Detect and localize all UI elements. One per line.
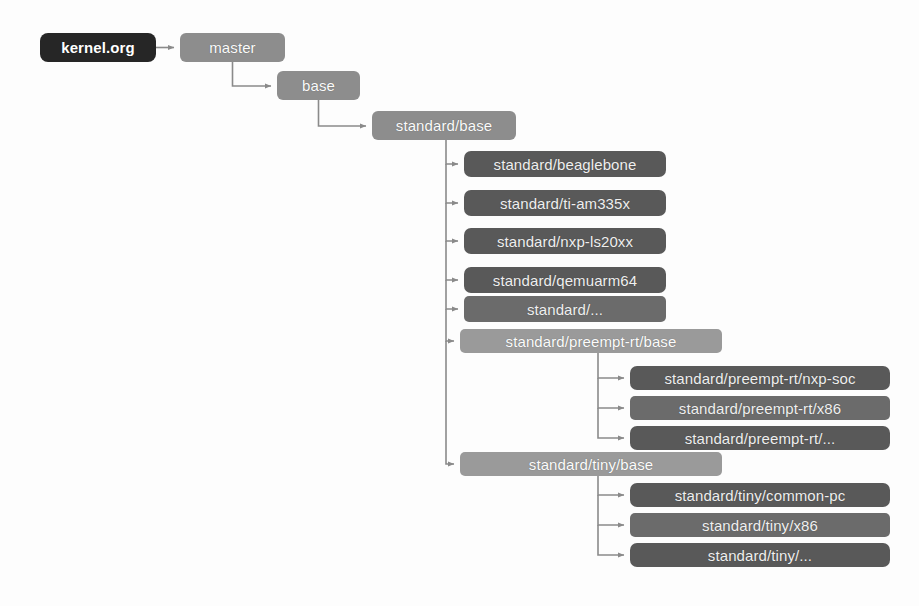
node-label: standard/nxp-ls20xx	[497, 233, 633, 250]
node-label: standard/beaglebone	[494, 156, 637, 173]
node-kernel-org[interactable]: kernel.org	[40, 33, 156, 62]
node-tiny-dots[interactable]: standard/tiny/...	[630, 543, 890, 567]
edge-standardbase-preemptrtbase	[446, 309, 454, 341]
node-label: standard/preempt-rt/base	[506, 333, 677, 350]
node-label: base	[302, 77, 335, 94]
node-standard-beaglebone[interactable]: standard/beaglebone	[464, 151, 666, 177]
node-label: kernel.org	[61, 39, 135, 56]
node-preempt-rt-dots[interactable]: standard/preempt-rt/...	[630, 426, 890, 450]
node-label: standard/preempt-rt/x86	[679, 400, 841, 417]
node-label: standard/qemuarm64	[493, 272, 637, 289]
edge-standardbase-qemuarm64	[446, 241, 458, 280]
edge-standardbase-tiam335x	[446, 164, 458, 203]
edge-standardbase-nxpls20xx	[446, 203, 458, 241]
node-master[interactable]: master	[180, 33, 285, 62]
node-label: standard/tiny/common-pc	[675, 487, 846, 504]
node-label: standard/base	[396, 117, 492, 134]
edge-tinybase-x86	[598, 495, 624, 525]
node-standard-dots[interactable]: standard/...	[464, 296, 666, 322]
diagram-canvas: kernel.org master base standard/base sta…	[0, 0, 919, 606]
node-label: standard/tiny/x86	[702, 517, 818, 534]
node-preempt-rt-nxp-soc[interactable]: standard/preempt-rt/nxp-soc	[630, 366, 890, 390]
node-tiny-common-pc[interactable]: standard/tiny/common-pc	[630, 483, 890, 507]
edge-tinybase-dots	[598, 525, 624, 555]
node-tiny-x86[interactable]: standard/tiny/x86	[630, 513, 890, 537]
node-standard-base[interactable]: standard/base	[372, 111, 516, 140]
edge-base-standardbase	[319, 100, 367, 126]
node-standard-nxp-ls20xx[interactable]: standard/nxp-ls20xx	[464, 228, 666, 254]
edge-preemptrtbase-nxpsoc	[598, 353, 624, 378]
node-preempt-rt-x86[interactable]: standard/preempt-rt/x86	[630, 396, 890, 420]
node-label: standard/tiny/...	[708, 547, 812, 564]
node-base[interactable]: base	[277, 71, 360, 100]
edge-master-base	[233, 62, 272, 86]
node-standard-tiny-base[interactable]: standard/tiny/base	[460, 452, 722, 476]
node-standard-preempt-rt-base[interactable]: standard/preempt-rt/base	[460, 329, 722, 353]
node-label: standard/ti-am335x	[500, 195, 630, 212]
node-standard-qemuarm64[interactable]: standard/qemuarm64	[464, 267, 666, 293]
node-label: master	[209, 39, 255, 56]
edge-preemptrtbase-dots	[598, 408, 624, 438]
node-standard-ti-am335x[interactable]: standard/ti-am335x	[464, 190, 666, 216]
node-label: standard/...	[527, 301, 603, 318]
edge-preemptrtbase-x86	[598, 378, 624, 408]
node-label: standard/preempt-rt/nxp-soc	[664, 370, 855, 387]
node-label: standard/tiny/base	[529, 456, 653, 473]
edge-tinybase-commonpc	[598, 476, 624, 495]
edge-standardbase-standarddots	[446, 280, 458, 309]
edge-standardbase-tinybase	[446, 341, 454, 464]
node-label: standard/preempt-rt/...	[685, 430, 836, 447]
edge-standardbase-beaglebone	[446, 140, 458, 164]
